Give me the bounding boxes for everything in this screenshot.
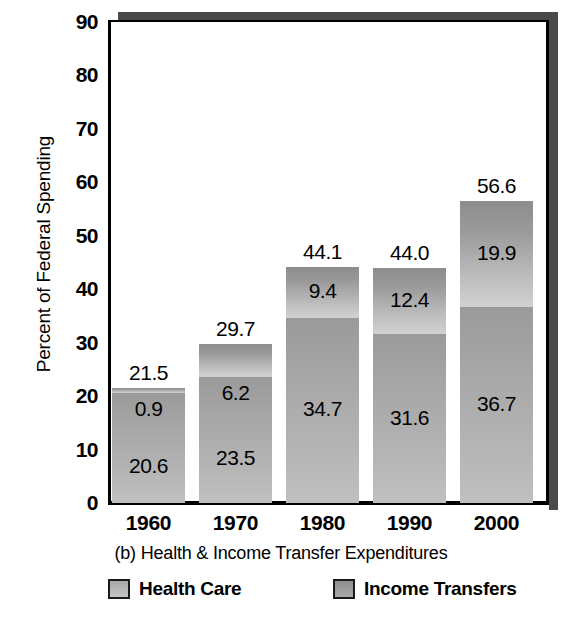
bar-label-health-care-1980: 9.4 xyxy=(286,279,359,303)
bar-group-1970[interactable]: 29.76.223.5 xyxy=(199,344,272,503)
bar-label-income-transfers-1960: 20.6 xyxy=(112,454,185,478)
y-axis-tick-30: 30 xyxy=(42,331,98,355)
bar-segment-income-transfers-1980[interactable]: 34.7 xyxy=(286,318,359,503)
bar-label-health-care-1990: 12.4 xyxy=(373,288,446,312)
figure-health-income-transfer-expenditures: Percent of Federal Spending 010203040506… xyxy=(0,0,562,617)
y-axis-tick-70: 70 xyxy=(42,117,98,141)
legend-label: Health Care xyxy=(139,578,241,600)
bar-segment-health-care-1970[interactable]: 29.7 xyxy=(199,344,272,377)
legend-item-income-transfers[interactable]: Income Transfers xyxy=(333,578,517,600)
bar-label-income-transfers-1980: 34.7 xyxy=(286,397,359,421)
bar-total-label-2000: 56.6 xyxy=(460,174,533,198)
bar-segment-income-transfers-1990[interactable]: 31.6 xyxy=(373,334,446,503)
x-axis-tick-1990: 1990 xyxy=(373,511,446,535)
x-axis-tick-labels: 19601970198019902000 xyxy=(111,511,547,541)
y-axis-tick-40: 40 xyxy=(42,277,98,301)
y-axis-tick-20: 20 xyxy=(42,384,98,408)
bar-total-label-1960: 21.5 xyxy=(112,361,185,385)
y-axis-tick-0: 0 xyxy=(42,491,98,515)
bar-segment-health-care-2000[interactable]: 19.956.6 xyxy=(460,201,533,307)
bar-label-income-transfers-2000: 36.7 xyxy=(460,392,533,416)
x-axis-tick-1960: 1960 xyxy=(112,511,185,535)
y-axis-tick-90: 90 xyxy=(42,10,98,34)
legend-label: Income Transfers xyxy=(364,578,517,600)
y-axis-tick-80: 80 xyxy=(42,63,98,87)
bar-segment-health-care-1980[interactable]: 9.444.1 xyxy=(286,267,359,317)
bar-group-2000[interactable]: 19.956.636.7 xyxy=(460,201,533,503)
bar-group-1980[interactable]: 9.444.134.7 xyxy=(286,267,359,503)
y-axis-tick-10: 10 xyxy=(42,438,98,462)
bar-label-health-care-1960: 0.9 xyxy=(112,397,185,421)
plot-frame-shadow-right xyxy=(549,12,558,510)
bar-total-label-1980: 44.1 xyxy=(286,240,359,264)
bar-label-income-transfers-1970: 23.5 xyxy=(199,446,272,470)
y-axis-tick-60: 60 xyxy=(42,170,98,194)
y-axis-tick-labels: 0102030405060708090 xyxy=(42,0,98,560)
bar-group-1990[interactable]: 12.444.031.6 xyxy=(373,268,446,503)
legend-item-health-care[interactable]: Health Care xyxy=(108,578,241,600)
bar-segment-income-transfers-1960[interactable]: 0.920.6 xyxy=(112,393,185,503)
income-swatch-icon xyxy=(333,579,355,599)
figure-caption: (b) Health & Income Transfer Expenditure… xyxy=(0,543,562,564)
bar-label-health-care-2000: 19.9 xyxy=(460,241,533,265)
bar-segment-income-transfers-2000[interactable]: 36.7 xyxy=(460,307,533,503)
bar-label-health-care-1970: 6.2 xyxy=(199,381,272,405)
y-axis-tick-50: 50 xyxy=(42,224,98,248)
bar-segment-income-transfers-1970[interactable]: 6.223.5 xyxy=(199,377,272,503)
plot-area: 21.50.920.629.76.223.59.444.134.712.444.… xyxy=(111,22,547,503)
x-axis-tick-1970: 1970 xyxy=(199,511,272,535)
bar-total-label-1990: 44.0 xyxy=(373,241,446,265)
bar-label-income-transfers-1990: 31.6 xyxy=(373,406,446,430)
bar-segment-health-care-1990[interactable]: 12.444.0 xyxy=(373,268,446,334)
bar-group-1960[interactable]: 21.50.920.6 xyxy=(112,388,185,503)
x-axis-tick-2000: 2000 xyxy=(460,511,533,535)
chart-legend: Health CareIncome Transfers xyxy=(0,578,562,608)
x-axis-tick-1980: 1980 xyxy=(286,511,359,535)
bar-total-label-1970: 29.7 xyxy=(199,317,272,341)
health-swatch-icon xyxy=(108,579,130,599)
